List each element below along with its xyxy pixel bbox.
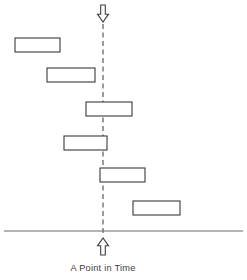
bar-2	[47, 68, 95, 82]
bar-1	[15, 38, 60, 52]
bar-group	[15, 38, 180, 215]
bar-5	[100, 168, 145, 182]
bar-4	[64, 136, 107, 150]
bar-3	[86, 102, 132, 116]
bottom-up-arrow-icon	[98, 238, 109, 255]
diagram-canvas: A Point in Time	[0, 0, 247, 280]
bar-6	[133, 201, 180, 215]
caption-a-point-in-time: A Point in Time	[70, 263, 135, 273]
point-in-time-diagram: A Point in Time	[0, 0, 247, 280]
top-down-arrow-icon	[98, 5, 109, 22]
